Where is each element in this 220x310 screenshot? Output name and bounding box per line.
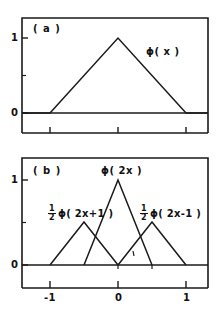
panel-b-xtick-label-0: 0 xyxy=(115,293,122,303)
left-fraction-denominator: 2 xyxy=(48,213,56,222)
curve-half-phi-2x-minus-1 xyxy=(118,222,186,265)
stray-mark xyxy=(133,251,134,256)
panel-b-tag: ( b ) xyxy=(33,166,61,176)
right-fraction-numerator: 1 xyxy=(140,205,148,213)
panel-b-ytick-label-1: 1 xyxy=(11,175,18,185)
curve-label-phi-2x: ϕ( 2x ) xyxy=(101,166,142,176)
left-fraction-numerator: 1 xyxy=(48,205,56,213)
curve-half-phi-2x-plus-1 xyxy=(50,222,118,265)
curve-label-half-phi-2x-minus-1: 1 2 ϕ( 2x-1 ) xyxy=(140,205,201,223)
left-fraction-one-half: 1 2 xyxy=(48,205,56,223)
panel-b-xtick-label-1: 1 xyxy=(183,293,190,303)
right-fraction-one-half: 1 2 xyxy=(140,205,148,223)
panel-b: ( b ) 1 0 ϕ( 2x ) 1 2 ϕ( 2x+1 ) 1 2 ϕ( 2… xyxy=(0,0,220,310)
curve-label-half-phi-2x-plus-1: 1 2 ϕ( 2x+1 ) xyxy=(48,205,113,223)
panel-b-xtick-label-neg1: -1 xyxy=(44,293,56,303)
right-fraction-denominator: 2 xyxy=(140,213,148,222)
panel-b-frame xyxy=(22,158,208,288)
panel-b-ytick-label-0: 0 xyxy=(11,260,18,270)
right-function-expression: ϕ( 2x-1 ) xyxy=(150,209,201,219)
panel-b-graphics xyxy=(0,0,220,310)
left-function-expression: ϕ( 2x+1 ) xyxy=(58,209,114,219)
figure-root: ( a ) 1 0 ϕ( x ) xyxy=(0,0,220,310)
